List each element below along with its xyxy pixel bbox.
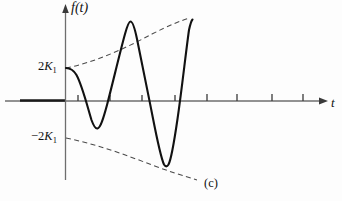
x-axis-label: t — [331, 96, 335, 109]
figure-container: f(t) t 2K1 −2K1 (c) — [0, 0, 342, 201]
y-axis-arrow-icon — [62, 4, 69, 13]
y-tick-label-positive: 2K1 — [38, 60, 57, 73]
figure-caption: (c) — [204, 177, 218, 190]
x-axis-arrow-icon — [319, 98, 328, 105]
y-tick-negative-subscript: 1 — [53, 135, 57, 145]
signal-curve — [66, 20, 193, 167]
y-tick-positive-subscript: 1 — [53, 65, 57, 75]
y-tick-positive-symbol: K — [44, 59, 52, 73]
x-axis-ticks — [78, 94, 303, 101]
lower-envelope-curve — [66, 138, 197, 180]
y-tick-label-negative: −2K1 — [31, 130, 57, 143]
y-tick-negative-symbol: K — [44, 129, 52, 143]
y-axis-label: f(t) — [71, 1, 88, 15]
y-tick-negative-coefficient: −2 — [31, 129, 44, 143]
plot-svg — [0, 0, 342, 201]
